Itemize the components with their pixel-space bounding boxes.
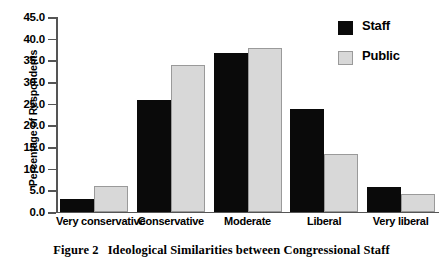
bar-staff-very-conservative [60,199,94,212]
y-axis-tick-label: 10.0 [23,163,45,175]
bar-public-moderate [248,48,282,212]
bar-staff-moderate [214,53,248,212]
legend-swatch-public [338,51,353,65]
y-axis-tick-mark [48,169,56,171]
y-axis-tick-label: 30.0 [23,76,45,88]
x-axis-labels: Very conservativeConservativeModerateLib… [56,215,439,233]
bar-public-very-conservative [94,186,128,212]
x-axis-tick-label: Conservative [133,215,210,227]
legend-label: Staff [362,18,390,33]
bar-group [137,17,205,212]
bar-staff-conservative [137,100,171,212]
bar-group [214,17,282,212]
figure-2-chart: Percentage of Respondents 45.040.035.030… [0,0,443,262]
figure-caption-label: Figure 2 [53,243,98,257]
x-axis-tick-label: Liberal [286,215,363,227]
y-axis-tick-mark [48,82,56,84]
y-axis-tick-mark [48,190,56,192]
y-axis-tick-label: 25.0 [23,98,45,110]
y-axis-tick-mark [48,125,56,127]
bar-staff-liberal [290,109,324,212]
x-axis-tick-label: Very conservative [56,215,133,227]
y-axis-tick-label: 0.0 [30,206,45,218]
figure-caption-text: Ideological Similarities between Congres… [108,243,390,257]
y-axis-tick-label: 45.0 [23,11,45,23]
legend-entry: Staff [338,18,438,40]
y-axis-tick-mark [48,212,56,214]
y-axis-tick-label: 20.0 [23,119,45,131]
x-axis-tick-label: Very liberal [362,215,439,227]
chart-legend: StaffPublic [338,18,438,78]
x-axis-tick-label: Moderate [209,215,286,227]
bar-group [60,17,128,212]
y-axis-tick-mark [48,60,56,62]
legend-entry: Public [338,48,438,70]
legend-swatch-staff [338,21,353,35]
y-axis-tick-label: 35.0 [23,54,45,66]
y-axis-tick-mark [48,147,56,149]
y-axis-tick-mark [48,17,56,19]
y-axis-tick-label: 5.0 [30,184,45,196]
y-axis-tick-label: 40.0 [23,33,45,45]
y-axis-tick-label: 15.0 [23,141,45,153]
legend-label: Public [362,48,400,63]
bar-public-liberal [324,154,358,213]
y-axis-tick-mark [48,104,56,106]
bar-public-conservative [171,65,205,212]
y-axis-tick-mark [48,39,56,41]
figure-caption: Figure 2Ideological Similarities between… [0,243,443,258]
bar-staff-very-liberal [367,187,401,212]
bar-public-very-liberal [401,194,435,212]
